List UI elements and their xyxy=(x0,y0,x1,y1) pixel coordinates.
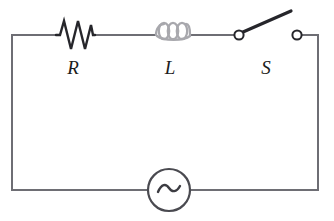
inductor-coil-icon xyxy=(156,23,190,40)
resistor-zigzag-icon xyxy=(56,21,95,49)
switch-terminal-right[interactable] xyxy=(292,30,301,39)
resistor-label: R xyxy=(55,58,91,77)
ac-source-circle xyxy=(148,169,190,211)
switch-blade[interactable] xyxy=(243,11,291,32)
switch-terminal-left[interactable] xyxy=(234,30,243,39)
circuit-canvas xyxy=(0,0,334,221)
inductor-label: L xyxy=(152,58,188,77)
switch-open-icon[interactable] xyxy=(234,11,301,40)
switch-label: S xyxy=(248,58,284,77)
circuit-diagram: R L S xyxy=(0,0,334,221)
ac-source-sine-icon xyxy=(148,169,190,211)
